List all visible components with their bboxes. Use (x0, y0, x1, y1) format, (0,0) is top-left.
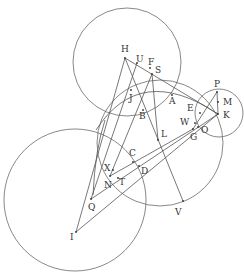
point-S (151, 73, 153, 75)
point-O (197, 126, 199, 128)
segment-PG (193, 92, 217, 129)
label-V: V (174, 207, 182, 217)
point-D (138, 165, 140, 167)
label-X: X (104, 163, 111, 173)
label-O: O (201, 125, 208, 135)
label-K: K (223, 110, 230, 120)
label-F: F (148, 57, 154, 67)
geometry-diagram: HUFSJABEPMKWOGLCDXNTQIV (0, 0, 244, 277)
segment-PK (217, 92, 218, 114)
label-W: W (180, 117, 190, 127)
circle-lower-left (4, 129, 146, 271)
segment-HV (125, 58, 183, 201)
label-A: A (168, 96, 176, 106)
label-I: I (70, 232, 74, 242)
point-N (109, 175, 111, 177)
label-M: M (223, 97, 232, 107)
point-C (132, 161, 134, 163)
label-J: J (128, 93, 133, 103)
label-E: E (187, 103, 194, 113)
label-H: H (121, 44, 129, 54)
point-H (124, 57, 126, 59)
point-M (217, 101, 219, 103)
point-P (216, 91, 218, 93)
circle-middle (97, 80, 223, 206)
label-C: C (129, 148, 136, 158)
point-G (192, 128, 194, 130)
label-N: N (104, 180, 112, 190)
label-G: G (190, 132, 197, 142)
point-K (217, 113, 219, 115)
point-F (149, 67, 151, 69)
label-D: D (141, 166, 148, 176)
point-L (157, 139, 159, 141)
point-V (182, 200, 184, 202)
label-T: T (119, 177, 125, 187)
label-L: L (161, 129, 167, 139)
point-Q (90, 198, 92, 200)
label-P: P (214, 79, 220, 89)
segment-HI (76, 58, 125, 232)
label-S: S (155, 65, 161, 75)
label-B: B (139, 111, 146, 121)
point-E (199, 112, 201, 114)
point-J (130, 89, 132, 91)
label-U: U (136, 54, 144, 64)
point-W (194, 122, 196, 124)
point-I (75, 231, 77, 233)
point-X (112, 169, 114, 171)
label-Q: Q (88, 202, 95, 212)
